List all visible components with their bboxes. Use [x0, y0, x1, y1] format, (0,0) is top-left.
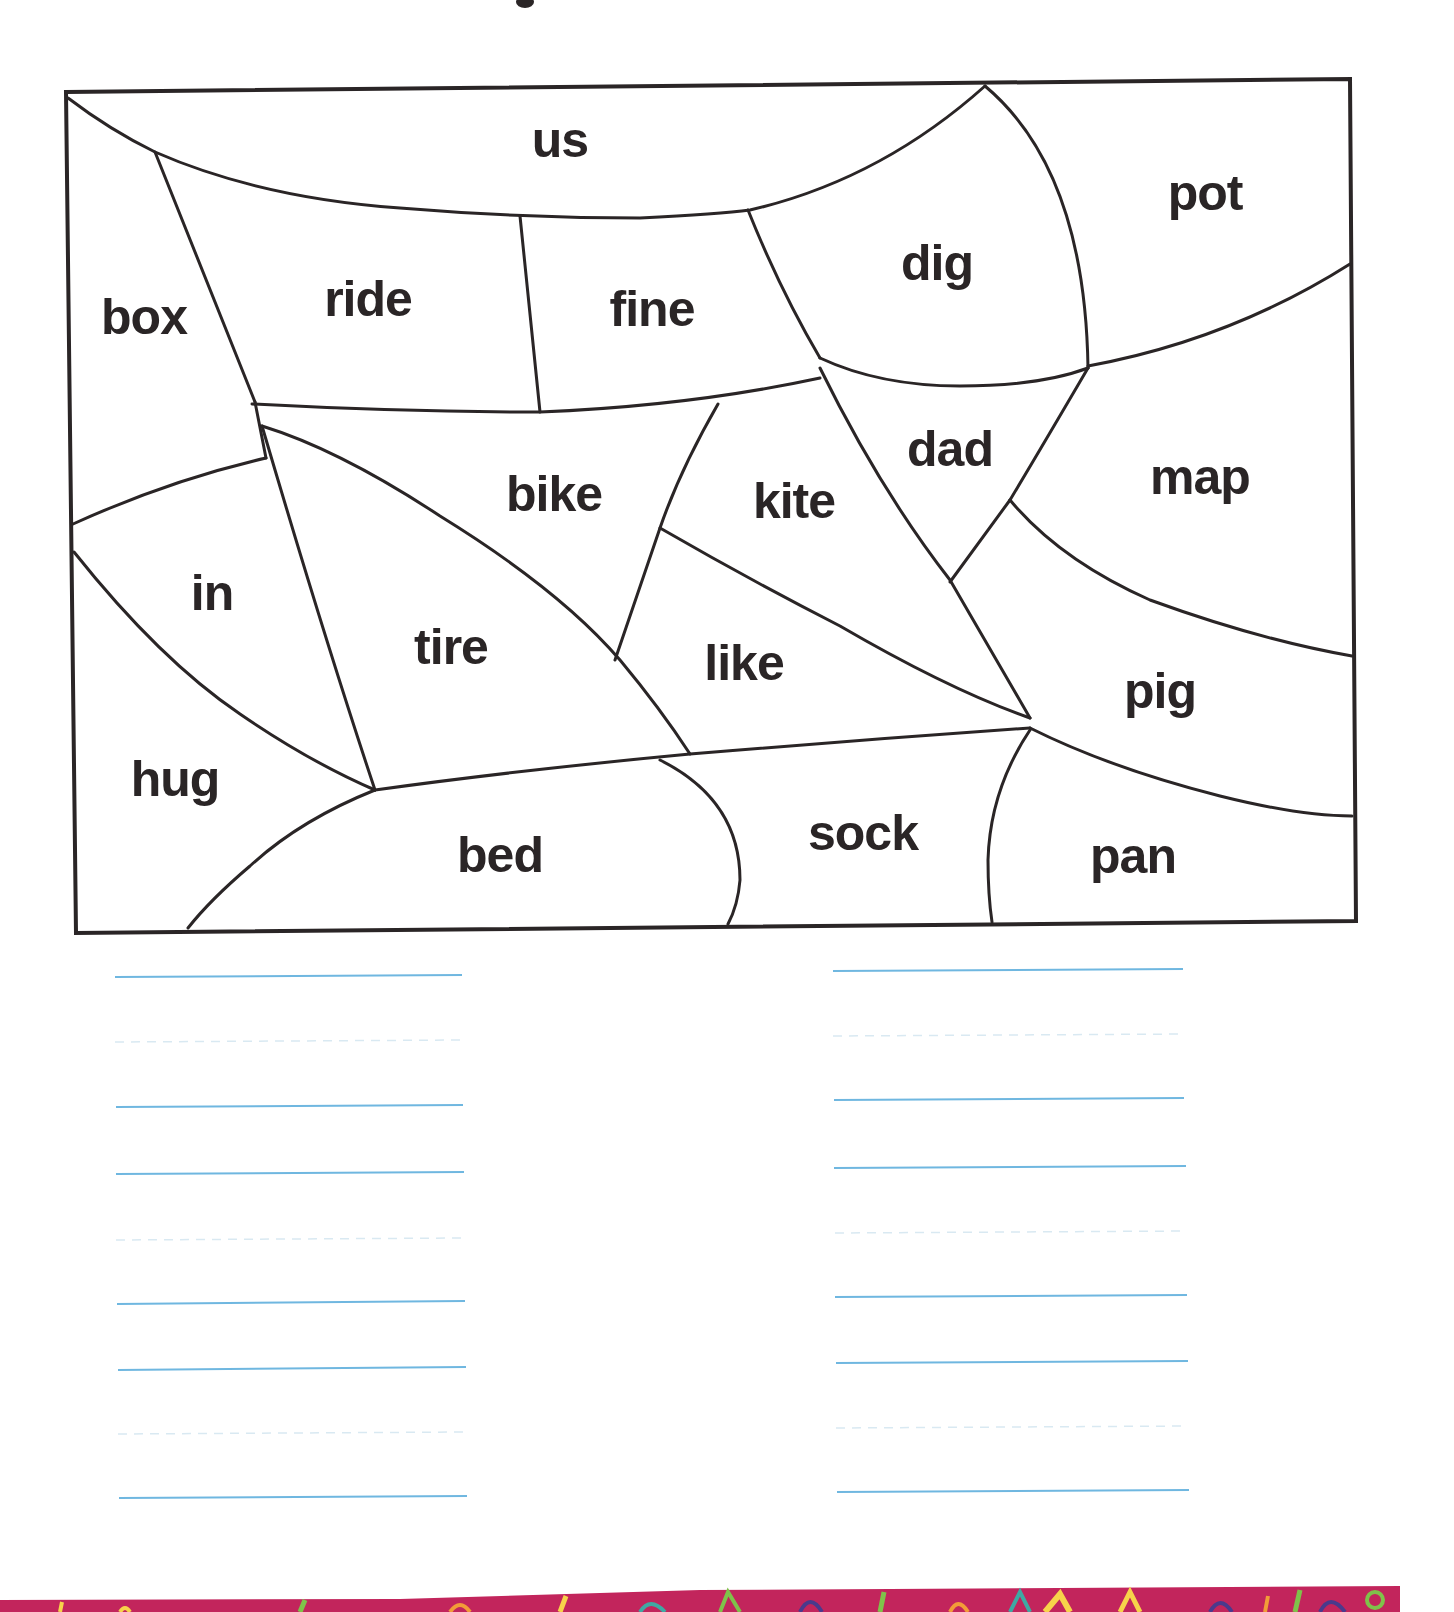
region-map[interactable]: map [1150, 449, 1250, 505]
region-like[interactable]: like [704, 635, 784, 691]
writing-row[interactable] [833, 969, 1184, 1100]
region-bed[interactable]: bed [457, 827, 543, 883]
region-us[interactable]: us [532, 112, 588, 168]
writing-row[interactable] [834, 1166, 1187, 1297]
region-box[interactable]: box [101, 289, 188, 345]
region-sock[interactable]: sock [808, 805, 919, 861]
region-map: us pot dig box ride fine dad map bike ki… [66, 79, 1356, 933]
map-frame [66, 79, 1356, 933]
writing-row[interactable] [118, 1367, 467, 1498]
region-pig[interactable]: pig [1124, 663, 1196, 719]
region-ride[interactable]: ride [324, 271, 412, 327]
region-tire[interactable]: tire [414, 619, 488, 675]
region-dig[interactable]: dig [901, 235, 973, 291]
writing-row[interactable] [116, 1172, 465, 1304]
region-pot[interactable]: pot [1168, 165, 1244, 221]
region-fine[interactable]: fine [610, 281, 695, 337]
writing-row[interactable] [836, 1361, 1189, 1492]
region-pan[interactable]: pan [1090, 828, 1176, 884]
region-in[interactable]: in [191, 565, 233, 621]
worksheet-page: us pot dig box ride fine dad map bike ki… [0, 0, 1454, 1612]
writing-lines-right [833, 969, 1189, 1492]
region-hug[interactable]: hug [131, 751, 220, 807]
decorative-border-strip [0, 1586, 1400, 1612]
region-borders [68, 86, 1352, 928]
writing-lines-left [115, 975, 467, 1498]
writing-row[interactable] [115, 975, 463, 1107]
region-kite[interactable]: kite [753, 473, 835, 529]
region-dad[interactable]: dad [907, 421, 993, 477]
title-fragment [516, 0, 534, 8]
region-bike[interactable]: bike [506, 466, 602, 522]
